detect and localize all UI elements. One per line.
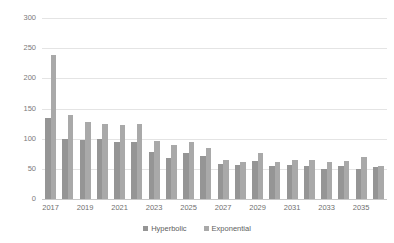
bar-exponential-2030 bbox=[275, 162, 281, 199]
bar-exponential-2019 bbox=[85, 122, 91, 199]
x-tick-label: 2031 bbox=[284, 201, 301, 215]
x-tick-label: 2017 bbox=[42, 201, 59, 215]
x-tick-label bbox=[163, 201, 180, 215]
bar-exponential-2027 bbox=[223, 160, 229, 199]
bar-exponential-2031 bbox=[292, 160, 298, 199]
x-tick-label: 2025 bbox=[180, 201, 197, 215]
x-tick-label bbox=[266, 201, 283, 215]
bar-exponential-2029 bbox=[258, 153, 264, 199]
x-tick-label bbox=[59, 201, 76, 215]
bar-exponential-2021 bbox=[120, 125, 126, 199]
bar-group bbox=[42, 18, 59, 199]
bar-group bbox=[266, 18, 283, 199]
chart-legend: HyperbolicExponential bbox=[0, 224, 394, 233]
bars-layer bbox=[42, 18, 387, 199]
bar-group bbox=[77, 18, 94, 199]
bar-exponential-2020 bbox=[102, 124, 108, 199]
x-tick-label bbox=[197, 201, 214, 215]
bar-group bbox=[318, 18, 335, 199]
bar-group bbox=[284, 18, 301, 199]
x-tick-label bbox=[370, 201, 387, 215]
bar-group bbox=[163, 18, 180, 199]
bar-group bbox=[232, 18, 249, 199]
x-axis-line bbox=[42, 199, 387, 200]
bar-group bbox=[94, 18, 111, 199]
bar-exponential-2018 bbox=[68, 115, 74, 199]
bar-exponential-2025 bbox=[189, 142, 195, 199]
x-tick-label: 2029 bbox=[249, 201, 266, 215]
y-tick-label: 150 bbox=[0, 105, 36, 113]
x-tick-label: 2021 bbox=[111, 201, 128, 215]
x-tick-label: 2027 bbox=[215, 201, 232, 215]
bar-group bbox=[146, 18, 163, 199]
y-tick-label: 100 bbox=[0, 135, 36, 143]
bar-group bbox=[249, 18, 266, 199]
bar-exponential-2036 bbox=[378, 166, 384, 199]
bar-group bbox=[215, 18, 232, 199]
legend-item-exponential[interactable]: Exponential bbox=[204, 224, 251, 233]
bar-chart: Structures 050100150200250300 2017201920… bbox=[0, 0, 394, 243]
x-tick-label bbox=[232, 201, 249, 215]
bar-group bbox=[353, 18, 370, 199]
legend-label: Hyperbolic bbox=[151, 224, 186, 233]
bar-group bbox=[111, 18, 128, 199]
bar-exponential-2033 bbox=[327, 162, 333, 199]
bar-group bbox=[370, 18, 387, 199]
bar-group bbox=[335, 18, 352, 199]
bar-exponential-2028 bbox=[240, 162, 246, 199]
plot-area bbox=[42, 18, 387, 199]
x-tick-label: 2033 bbox=[318, 201, 335, 215]
y-tick-label: 250 bbox=[0, 44, 36, 52]
legend-swatch-icon bbox=[143, 226, 148, 231]
y-tick-label: 200 bbox=[0, 74, 36, 82]
x-tick-label bbox=[301, 201, 318, 215]
x-axis-labels: 2017201920212023202520272029203120332035 bbox=[42, 201, 387, 215]
bar-group bbox=[180, 18, 197, 199]
x-tick-label bbox=[94, 201, 111, 215]
bar-group bbox=[128, 18, 145, 199]
legend-item-hyperbolic[interactable]: Hyperbolic bbox=[143, 224, 186, 233]
x-tick-label bbox=[128, 201, 145, 215]
bar-exponential-2022 bbox=[137, 124, 143, 199]
bar-exponential-2026 bbox=[206, 148, 212, 199]
x-tick-label bbox=[335, 201, 352, 215]
x-tick-label: 2035 bbox=[353, 201, 370, 215]
bar-exponential-2024 bbox=[171, 145, 177, 199]
bar-exponential-2035 bbox=[361, 157, 367, 199]
x-tick-label: 2023 bbox=[146, 201, 163, 215]
bar-group bbox=[59, 18, 76, 199]
bar-exponential-2034 bbox=[344, 161, 350, 199]
bar-group bbox=[197, 18, 214, 199]
bar-exponential-2023 bbox=[154, 141, 160, 199]
bar-group bbox=[301, 18, 318, 199]
legend-label: Exponential bbox=[212, 224, 251, 233]
bar-exponential-2032 bbox=[309, 160, 315, 199]
legend-swatch-icon bbox=[204, 226, 209, 231]
x-tick-label: 2019 bbox=[77, 201, 94, 215]
y-tick-label: 50 bbox=[0, 165, 36, 173]
y-tick-label: 0 bbox=[0, 195, 36, 203]
bar-exponential-2017 bbox=[51, 55, 57, 199]
y-tick-label: 300 bbox=[0, 14, 36, 22]
